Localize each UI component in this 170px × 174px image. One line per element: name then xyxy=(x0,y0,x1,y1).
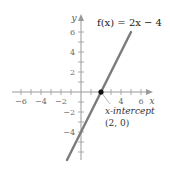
x-tick-label: −6 xyxy=(15,97,27,106)
x-tick-label: −2 xyxy=(55,97,67,106)
x-tick-label: 6 xyxy=(138,97,143,106)
y-tick-label: −2 xyxy=(63,108,75,117)
y-tick-label: 6 xyxy=(70,28,75,37)
x-tick-label: −4 xyxy=(35,97,47,106)
y-axis-label: y xyxy=(70,13,77,23)
y-tick-label: 4 xyxy=(70,48,75,57)
x-axis: −6 −4 −2 4 6 x xyxy=(12,89,155,106)
x-intercept-point xyxy=(98,89,103,94)
y-axis: 6 4 2 −2 −4 y xyxy=(63,13,84,160)
x-intercept-coords: (2, 0) xyxy=(105,118,129,128)
y-tick-label: −4 xyxy=(63,128,75,137)
function-label: f(x) = 2x − 4 xyxy=(97,17,162,28)
function-line xyxy=(67,32,131,160)
x-axis-label: x xyxy=(149,96,154,106)
y-tick-label: 2 xyxy=(70,68,75,77)
x-intercept-label: x-intercept xyxy=(105,106,155,116)
x-tick-label: 4 xyxy=(118,97,123,106)
function-graph: −6 −4 −2 4 6 x 6 4 2 −2 −4 y xyxy=(0,0,170,174)
